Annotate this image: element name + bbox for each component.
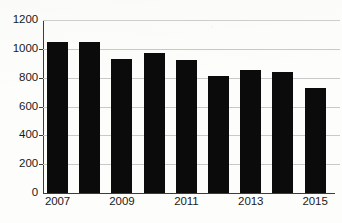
- bar: [272, 72, 293, 193]
- x-axis-tick-label: 2015: [295, 196, 335, 208]
- y-axis-tick-label: 400: [2, 129, 38, 141]
- bar: [79, 42, 100, 193]
- y-axis-tick: [39, 164, 43, 165]
- y-axis-tick-label: 200: [2, 158, 38, 170]
- y-axis-tick: [39, 78, 43, 79]
- x-axis-labels: 20072009201120132015: [43, 196, 342, 216]
- y-axis-tick-label: 0: [2, 187, 38, 199]
- bar: [144, 53, 165, 193]
- y-axis-labels: 020040060080010001200: [0, 0, 38, 223]
- x-axis-tick-label: 2007: [38, 196, 78, 208]
- bar: [111, 59, 132, 193]
- x-axis-baseline: [43, 193, 335, 194]
- bar: [176, 60, 197, 193]
- x-axis-tick-label: 2009: [102, 196, 142, 208]
- bar: [47, 42, 68, 193]
- y-axis-tick-label: 1200: [2, 14, 38, 26]
- gridline: [43, 20, 340, 21]
- y-axis-tick-label: 800: [2, 72, 38, 84]
- y-axis-tick: [39, 49, 43, 50]
- bar: [240, 70, 261, 193]
- bar-chart: 020040060080010001200 200720092011201320…: [0, 0, 342, 223]
- bar: [208, 76, 229, 193]
- x-axis-tick-label: 2011: [166, 196, 206, 208]
- plot-area: [43, 20, 340, 193]
- y-axis-tick-label: 600: [2, 101, 38, 113]
- x-axis-tick-label: 2013: [231, 196, 271, 208]
- y-axis-tick: [39, 107, 43, 108]
- y-axis-tick-label: 1000: [2, 43, 38, 55]
- y-axis-tick: [39, 135, 43, 136]
- bar: [305, 88, 326, 193]
